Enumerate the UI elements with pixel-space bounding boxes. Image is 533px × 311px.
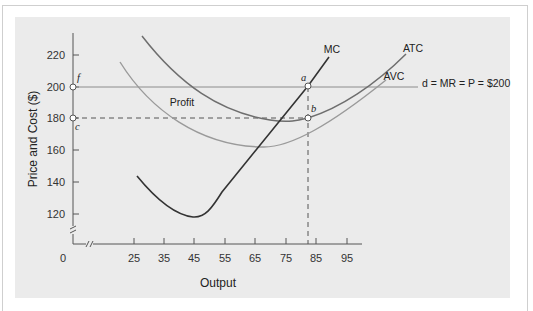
y-axis-title: Price and Cost ($) — [26, 91, 40, 188]
label-b: b — [311, 103, 316, 114]
atc-label: ATC — [403, 42, 424, 54]
demand-label: d = MR = P = $200 — [422, 77, 510, 89]
avc-label: AVC — [384, 70, 405, 82]
x-tick-label: 75 — [280, 252, 292, 264]
point-b — [305, 115, 311, 121]
y-tick-label: 120 — [47, 208, 65, 220]
y-tick-label: 200 — [47, 81, 65, 93]
avc-curve — [120, 62, 386, 147]
x-tick-label: 0 — [60, 252, 66, 264]
x-tick-label: 35 — [158, 252, 170, 264]
x-tick-label: 65 — [249, 252, 261, 264]
x-axis-title: Output — [200, 276, 237, 290]
x-tick-label: 85 — [310, 252, 322, 264]
y-axis-break-icon — [70, 230, 76, 233]
y-tick-label: 220 — [47, 49, 65, 61]
label-f: f — [77, 72, 82, 83]
x-tick-label: 55 — [219, 252, 231, 264]
x-tick-label: 45 — [188, 252, 200, 264]
point-a — [305, 83, 311, 89]
label-c: c — [75, 121, 80, 132]
atc-curve — [142, 36, 406, 121]
y-axis-break-icon — [70, 226, 76, 229]
profit-label: Profit — [170, 96, 195, 108]
cost-curves-chart: 220 200 180 160 140 120 0 25 35 45 55 65… — [0, 0, 533, 311]
x-axis-break-icon — [86, 241, 89, 247]
point-f — [70, 84, 76, 90]
label-a: a — [301, 72, 306, 83]
x-ticks — [134, 238, 347, 244]
x-tick-label: 25 — [128, 252, 140, 264]
x-axis-break-icon — [90, 241, 93, 247]
x-tick-label: 95 — [341, 252, 353, 264]
y-tick-label: 140 — [47, 176, 65, 188]
y-tick-label: 160 — [47, 144, 65, 156]
mc-label: MC — [324, 43, 341, 55]
y-tick-label: 180 — [47, 112, 65, 124]
